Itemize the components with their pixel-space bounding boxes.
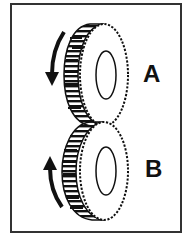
gear-a	[64, 24, 128, 126]
rotation-arrow-down-icon	[45, 32, 64, 86]
gear-diagram	[0, 0, 186, 238]
gear-label-b: B	[145, 157, 162, 181]
gear-label-a: A	[143, 62, 160, 86]
gear-b	[62, 122, 128, 220]
rotation-arrow-up-icon	[43, 156, 62, 207]
